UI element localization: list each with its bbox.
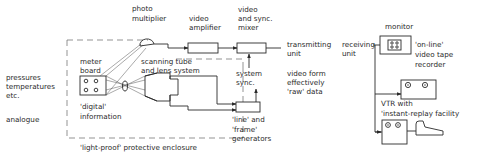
- video-amplifier-label-1: video: [189, 14, 209, 23]
- receiving-unit-label-2: unit: [342, 49, 356, 58]
- online-vtr-label-3: recorder: [415, 60, 445, 69]
- input-label-analogue: analogue: [6, 115, 40, 124]
- line-frame-generators: system sync. 'line' and 'frame' generato…: [170, 69, 271, 143]
- line-scan-connection: [170, 76, 236, 104]
- receiver-bus: [373, 45, 383, 132]
- monitor-box: [380, 36, 411, 54]
- generators-label-2: 'frame': [232, 125, 257, 134]
- replay-vtr-label-1: VTR with: [381, 99, 413, 108]
- video-amplifier-label-2: amplifier: [189, 23, 221, 32]
- transmission-link: transmitting unit receiving unit video f…: [287, 40, 375, 96]
- meter-board-box: [80, 76, 106, 95]
- scanning-tube-label-1: scanning tube: [141, 57, 193, 66]
- video-form-label-2: effectively: [287, 78, 325, 87]
- digital-information-label-2: information: [80, 112, 121, 121]
- input-label-pressures: pressures: [6, 73, 41, 82]
- mixer-box: [237, 43, 266, 53]
- generators-label-1: 'line' and: [232, 115, 265, 124]
- meter-board-label-2: board: [80, 66, 101, 75]
- monitor-label: monitor: [385, 22, 413, 31]
- video-amplifier: video amplifier: [176, 14, 237, 53]
- frame-scan-connection: [170, 95, 236, 110]
- replay-control-unit-icon: [416, 121, 443, 135]
- enclosure-label: 'light-proof' protective enclosure: [80, 143, 198, 152]
- photo-multiplier-label-2: multiplier: [132, 14, 166, 23]
- online-vtr-label-1: 'on-line': [415, 40, 443, 49]
- video-form-label-1: video form: [287, 69, 326, 78]
- video-form-label-3: 'raw' data: [287, 87, 323, 96]
- transmitting-unit-label-1: transmitting: [287, 40, 331, 49]
- monitor: monitor: [380, 22, 413, 54]
- replay-vtr-label-2: 'instant-replay facility: [381, 109, 460, 118]
- mixer-label-1: video: [238, 5, 258, 14]
- system-sync-label-2: sync.: [236, 78, 255, 87]
- video-amplifier-box: [188, 43, 218, 53]
- digital-information-label-1: 'digital': [80, 102, 106, 111]
- video-sync-mixer: video and sync. mixer: [237, 5, 281, 68]
- meter-board-label-1: meter: [80, 57, 102, 66]
- photo-multiplier: photo multiplier: [132, 4, 176, 48]
- tv-data-transmission-diagram: pressures temperatures etc. analogue 'li…: [0, 0, 488, 159]
- input-label-etc: etc.: [6, 91, 19, 100]
- instant-replay-vtr: VTR with 'instant-replay facility: [381, 99, 460, 144]
- photo-multiplier-label-1: photo: [132, 4, 153, 13]
- generators-box: [236, 102, 260, 112]
- online-vtr-label-2: video tape: [415, 50, 454, 59]
- mixer-label-2: and sync.: [238, 14, 273, 23]
- input-labels: pressures temperatures etc. analogue: [6, 73, 55, 124]
- meter-board: meter board 'digital' information: [80, 57, 121, 121]
- receiving-unit-label-1: receiving: [342, 40, 375, 49]
- mixer-label-3: mixer: [238, 23, 258, 32]
- transmitting-unit-label-2: unit: [287, 49, 301, 58]
- scanning-tube-icon: [145, 73, 178, 101]
- photo-multiplier-output-line: [154, 44, 176, 48]
- input-label-temperatures: temperatures: [6, 82, 55, 91]
- generators-label-3: generators: [232, 134, 271, 143]
- system-sync-label-1: system: [236, 69, 262, 78]
